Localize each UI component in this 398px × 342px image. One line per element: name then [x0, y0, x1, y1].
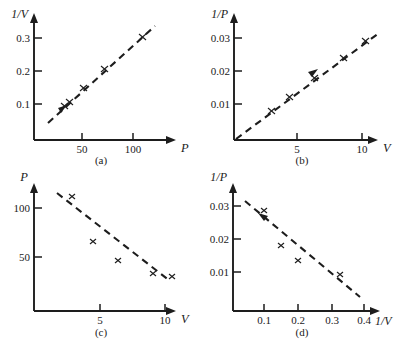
panel-c: 100 50 5 10 P V (c)	[14, 170, 191, 339]
panel-c-y-tick-label-50: 50	[19, 251, 31, 263]
panel-d-y-axis-label: 1/P	[210, 170, 227, 184]
panel-a-y-axis-label: 1/V	[11, 7, 29, 21]
panel-a: 0.3 0.2 0.1 50 100 1/V P (a)	[11, 7, 189, 167]
marker-point	[295, 258, 301, 263]
panel-c-x-tick-label-5: 5	[97, 314, 103, 326]
panel-a-x-tick-label-100: 100	[125, 143, 142, 155]
panel-d-y-tick-label-001: 0.01	[210, 266, 229, 278]
panel-b-y-axis-arrow	[230, 13, 238, 23]
panel-a-x-tick-label-50: 50	[77, 143, 89, 155]
panel-a-y-tick-label-2: 0.2	[16, 65, 30, 77]
panel-d: 0.03 0.02 0.01 0.1 0.2 0.3 0.4 1/P 1/V (…	[210, 170, 394, 339]
panel-c-caption: (c)	[95, 326, 108, 339]
panel-d-x-tick-label-04: 0.4	[357, 314, 371, 326]
panel-d-caption: (d)	[296, 326, 309, 339]
panel-d-y-tick-label-002: 0.02	[210, 233, 229, 245]
marker-point	[337, 272, 343, 277]
panel-c-x-tick-label-10: 10	[160, 314, 172, 326]
marker-point	[69, 194, 75, 199]
panel-a-y-axis-arrow	[30, 13, 38, 23]
panel-a-caption: (a)	[95, 154, 108, 167]
panel-a-x-axis-arrow	[166, 136, 176, 144]
panel-d-x-axis-label: 1/V	[375, 314, 393, 328]
panel-d-x-tick-label-01: 0.1	[257, 314, 271, 326]
panel-c-trend-line	[57, 193, 170, 281]
panel-b-x-axis-arrow	[368, 136, 378, 144]
marker-point	[90, 239, 96, 244]
marker-point	[278, 243, 284, 248]
panel-a-x-axis-label: P	[180, 141, 189, 155]
panel-b-y-tick-label-003: 0.03	[211, 32, 231, 44]
panel-b-y-tick-label-002: 0.02	[211, 65, 230, 77]
panel-d-y-axis-arrow	[229, 183, 237, 193]
panel-c-y-tick-label-100: 100	[14, 202, 31, 214]
panel-c-data-markers	[69, 194, 175, 279]
panel-d-x-tick-label-03: 0.3	[325, 314, 339, 326]
figure-svg: 0.3 0.2 0.1 50 100 1/V P (a)	[0, 0, 398, 342]
panel-b-y-tick-label-001: 0.01	[211, 98, 230, 110]
marker-point	[115, 258, 121, 263]
four-panel-figure: 0.3 0.2 0.1 50 100 1/V P (a)	[0, 0, 398, 342]
marker-point	[139, 34, 146, 40]
panel-b-data-markers	[268, 38, 369, 114]
panel-c-y-axis-arrow	[30, 183, 38, 193]
panel-d-data-markers	[261, 208, 343, 277]
panel-b-trend-line	[236, 33, 379, 139]
marker-point	[169, 274, 175, 279]
panel-c-x-axis-label: V	[181, 312, 190, 326]
panel-b-y-axis-label: 1/P	[211, 7, 228, 21]
panel-a-y-tick-label-3: 0.3	[16, 32, 30, 44]
marker-point	[268, 108, 275, 114]
panel-d-y-tick-label-003: 0.03	[210, 200, 230, 212]
panel-d-x-tick-label-02: 0.2	[291, 314, 305, 326]
panel-b-caption: (b)	[296, 154, 309, 167]
marker-point	[150, 271, 156, 276]
panel-a-y-tick-label-1: 0.1	[16, 98, 30, 110]
marker-point	[261, 208, 267, 213]
panel-b: 0.03 0.02 0.01 5 10 1/P V (b)	[211, 7, 392, 167]
panel-b-x-axis-label: V	[383, 141, 392, 155]
panel-b-x-tick-label-10: 10	[357, 143, 369, 155]
panel-c-y-axis-label: P	[19, 170, 28, 184]
